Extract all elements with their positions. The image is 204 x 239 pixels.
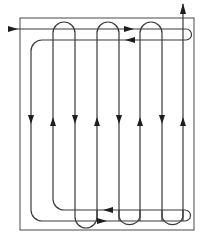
arrow-right-icon [8, 26, 18, 32]
arrow-left-icon [125, 37, 135, 43]
arrow-down-icon [116, 115, 122, 124]
boundary-frame [20, 18, 194, 230]
arrow-right-icon [97, 218, 107, 224]
arrow-down-icon [28, 115, 34, 124]
arrow-up-icon [94, 117, 100, 126]
arrow-up-icon [180, 117, 186, 126]
arrow-down-icon [159, 115, 165, 124]
arrow-up-icon [50, 117, 56, 126]
arrow-left-icon [103, 207, 113, 213]
arrow-up-icon [137, 117, 143, 126]
serpentine-path-diagram [0, 0, 204, 239]
arrow-right-icon [124, 26, 134, 32]
arrow-down-icon [72, 115, 78, 124]
arrow-up-icon [180, 3, 186, 14]
